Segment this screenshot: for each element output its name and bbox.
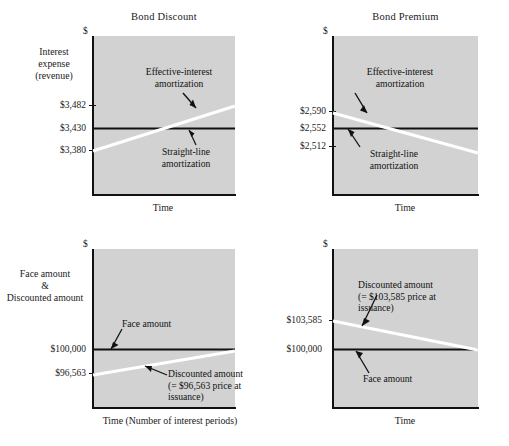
chart-panel-bond-premium-interest: Bond Premium $ Time $2,590 $2,552 $2,512…: [255, 0, 509, 225]
annotation-arrowhead-effective-interest: [360, 105, 367, 113]
annotation-effective-interest: Effective-interest amortization: [347, 66, 453, 89]
series-line-effective-interest: [333, 113, 478, 153]
annotation-effective-interest: Effective-interest amortization: [126, 66, 232, 89]
annotation-arrowhead-discounted-amount: [145, 366, 152, 372]
annotation-straight-line: Straight-line amortization: [140, 146, 232, 169]
chart-panel-bond-discount-amount: $ Face amount & Discounted amount Time (…: [0, 225, 255, 446]
annotation-premium-amount: Discounted amount (= $103,585 price at i…: [358, 279, 470, 314]
chart-panel-bond-premium-amount: $ Time $103,585 $100,000 Discounted amou…: [255, 225, 509, 446]
annotation-arrowhead-face-amount: [356, 351, 363, 359]
series-overlay: [0, 0, 255, 225]
annotation-arrowhead-straight-line: [348, 129, 355, 137]
series-line-premium-amount: [333, 321, 478, 350]
series-overlay: [255, 0, 509, 225]
annotation-face-amount: Face amount: [363, 373, 453, 385]
figure-canvas: Bond Discount $ Interest expense (revenu…: [0, 0, 509, 446]
annotation-arrowhead-face-amount: [111, 342, 119, 349]
annotation-straight-line: Straight-line amortization: [348, 148, 440, 171]
annotation-arrowhead-straight-line: [189, 130, 195, 137]
annotation-face-amount: Face amount: [122, 318, 212, 330]
chart-panel-bond-discount-interest: Bond Discount $ Interest expense (revenu…: [0, 0, 255, 225]
annotation-arrowhead-premium-amount: [362, 318, 370, 326]
series-overlay: [255, 225, 509, 446]
series-overlay: [0, 225, 255, 446]
annotation-discounted-amount: Discounted amount (= $96,563 price at is…: [168, 368, 264, 403]
